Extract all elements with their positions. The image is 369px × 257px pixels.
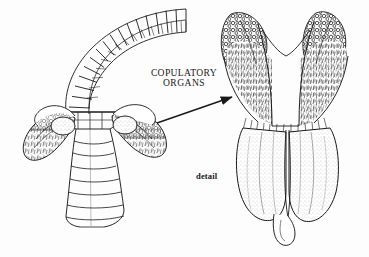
copulatory-organs-label: COPULATORY ORGANS (138, 68, 230, 89)
illustration-canvas (0, 0, 369, 257)
callout-label-line1: COPULATORY (151, 67, 217, 78)
callout-label-line2: ORGANS (138, 78, 230, 88)
illustration-figure: COPULATORY ORGANS detail (0, 0, 369, 257)
detail-label: detail (196, 172, 232, 181)
